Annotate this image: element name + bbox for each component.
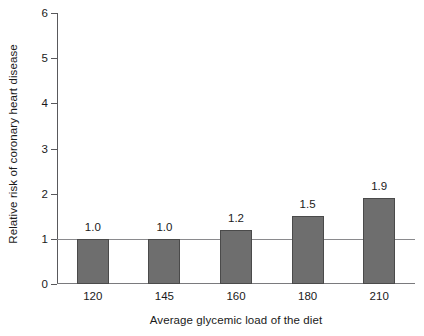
y-axis-title: Relative risk of coronary heart disease [2, 0, 24, 294]
bar [220, 230, 252, 284]
y-tick-mark [51, 103, 57, 104]
chart-figure: Relative risk of coronary heart disease … [0, 0, 424, 336]
bar-value-label: 1.0 [85, 221, 101, 233]
x-tick-label: 160 [226, 290, 245, 302]
y-tick-mark [51, 149, 57, 150]
bar [363, 198, 395, 284]
y-tick-label: 5 [42, 52, 48, 64]
x-tick-label: 180 [298, 290, 317, 302]
bar [292, 216, 324, 284]
y-tick-label: 0 [42, 278, 48, 290]
y-tick-mark [51, 58, 57, 59]
y-tick-mark [51, 194, 57, 195]
plot-area: 0123456 1.01.01.21.51.9 120145160180210 [57, 13, 415, 284]
y-tick-label: 4 [42, 97, 48, 109]
bar [148, 239, 180, 284]
bar-value-label: 1.9 [371, 180, 387, 192]
bar-value-label: 1.2 [228, 212, 244, 224]
y-tick-mark [51, 13, 57, 14]
y-tick-mark [51, 284, 57, 285]
x-tick-label: 145 [155, 290, 174, 302]
y-axis-spine [57, 13, 58, 284]
y-tick-label: 1 [42, 233, 48, 245]
bar-value-label: 1.5 [300, 198, 316, 210]
x-tick-label: 120 [83, 290, 102, 302]
bar-value-label: 1.0 [156, 221, 172, 233]
x-tick-label: 210 [370, 290, 389, 302]
y-tick-mark [51, 239, 57, 240]
bar [77, 239, 109, 284]
y-tick-label: 6 [42, 7, 48, 19]
y-tick-label: 2 [42, 188, 48, 200]
y-tick-label: 3 [42, 143, 48, 155]
x-axis-title: Average glycemic load of the diet [57, 314, 415, 326]
